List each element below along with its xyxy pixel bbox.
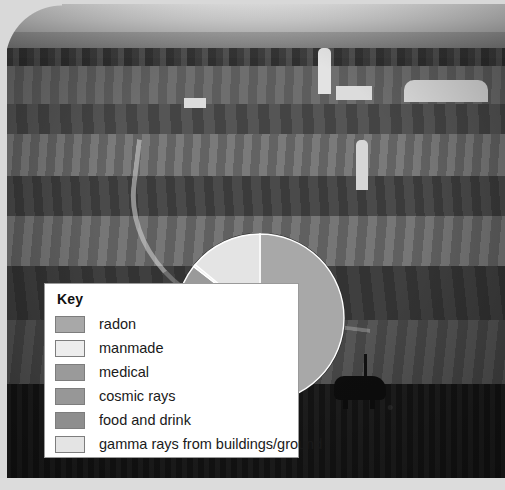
legend-item-manmade[interactable]: manmade <box>55 336 290 360</box>
screenshot-stage: Key radon manmade medical cosmic rays fo… <box>0 0 505 490</box>
legend-label-food-and-drink: food and drink <box>99 412 191 428</box>
legend-item-gamma-rays[interactable]: gamma rays from buildings/ground <box>55 432 290 456</box>
legend-swatch-cosmic-rays <box>55 388 85 405</box>
legend-item-medical[interactable]: medical <box>55 360 290 384</box>
page-rounded-corner <box>0 0 62 62</box>
legend-item-food-and-drink[interactable]: food and drink <box>55 408 290 432</box>
legend-label-gamma-rays: gamma rays from buildings/ground <box>99 436 322 452</box>
legend-label-manmade: manmade <box>99 340 163 356</box>
legend-item-radon[interactable]: radon <box>55 312 290 336</box>
legend-label-medical: medical <box>99 364 149 380</box>
legend-key-box: Key radon manmade medical cosmic rays fo… <box>44 283 299 458</box>
legend-swatch-manmade <box>55 340 85 357</box>
legend-label-radon: radon <box>99 316 136 332</box>
legend-item-cosmic-rays[interactable]: cosmic rays <box>55 384 290 408</box>
legend-label-cosmic-rays: cosmic rays <box>99 388 176 404</box>
legend-swatch-medical <box>55 364 85 381</box>
legend-swatch-radon <box>55 316 85 333</box>
legend-title: Key <box>57 291 290 307</box>
page-bottom-edge <box>0 478 505 490</box>
page-left-edge <box>0 40 7 478</box>
legend-swatch-gamma-rays <box>55 436 85 453</box>
legend-swatch-food-and-drink <box>55 412 85 429</box>
